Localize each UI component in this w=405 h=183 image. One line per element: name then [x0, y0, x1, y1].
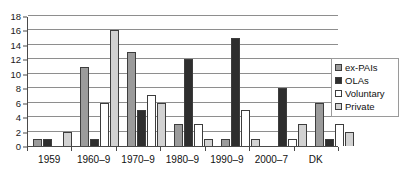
- gridline: [28, 15, 338, 16]
- x-axis-tick-mark: [249, 147, 250, 151]
- legend-item-label: OLAs: [345, 76, 369, 86]
- x-axis-tick-label: 1980–9: [160, 154, 204, 165]
- y-axis-tick-label: 4: [16, 113, 21, 123]
- bar: [174, 124, 183, 146]
- y-axis-tick-label: 14: [10, 41, 21, 51]
- legend-item[interactable]: ex-PAIs: [335, 61, 395, 74]
- legend-item[interactable]: OLAs: [335, 74, 395, 87]
- bar: [221, 139, 230, 146]
- x-axis-labels: 19591960–91970–91980–91990–92000–7DK: [27, 154, 338, 165]
- legend-item-label: Voluntary: [345, 89, 385, 99]
- bar: [204, 139, 213, 146]
- y-axis-tick-label: 6: [16, 99, 21, 109]
- x-axis-tick-mark: [71, 147, 72, 151]
- x-axis-tick-mark: [160, 147, 161, 151]
- x-axis-tick-mark: [205, 147, 206, 151]
- y-axis-tick-label: 8: [16, 84, 21, 94]
- bar: [288, 139, 297, 146]
- legend-item-label: ex-PAIs: [345, 63, 378, 73]
- x-axis-tick-label: 1990–9: [205, 154, 249, 165]
- y-axis-tick-label: 12: [10, 56, 21, 66]
- x-axis-tick-mark: [116, 147, 117, 151]
- x-axis-tick-label: 2000–7: [249, 154, 293, 165]
- bar: [241, 110, 250, 146]
- bar: [100, 103, 109, 146]
- y-axis-tick-label: 0: [16, 142, 21, 152]
- bar: [184, 59, 193, 146]
- bar: [194, 124, 203, 146]
- x-axis-tick-mark: [27, 147, 28, 151]
- legend-swatch-icon: [335, 90, 342, 97]
- bar-chart: 024681012141618 19591960–91970–91980–919…: [0, 0, 405, 183]
- plot-area: [27, 17, 338, 147]
- bar: [90, 139, 99, 146]
- bar-group: [170, 17, 217, 146]
- bar: [345, 132, 354, 146]
- bar: [110, 30, 119, 146]
- legend-item[interactable]: Voluntary: [335, 87, 395, 100]
- legend-item[interactable]: Private: [335, 100, 395, 113]
- y-axis-tick-label: 2: [16, 128, 21, 138]
- bar-group: [264, 17, 311, 146]
- x-axis-tick-mark: [294, 147, 295, 151]
- bar: [335, 124, 344, 146]
- bar: [80, 67, 89, 146]
- legend-swatch-icon: [335, 77, 342, 84]
- bar: [127, 52, 136, 146]
- y-axis-tick-label: 16: [10, 27, 21, 37]
- y-axis-tick-label: 10: [10, 70, 21, 80]
- bar: [251, 139, 260, 146]
- legend-swatch-icon: [335, 103, 342, 110]
- bar: [33, 139, 42, 146]
- bar-group: [76, 17, 123, 146]
- chart-legend: ex-PAIsOLAsVoluntaryPrivate: [331, 58, 399, 117]
- bar: [315, 103, 324, 146]
- bar: [298, 124, 307, 146]
- bar-groups: [29, 17, 338, 146]
- bar: [43, 139, 52, 146]
- legend-item-label: Private: [345, 102, 375, 112]
- x-axis-tick-label: DK: [294, 154, 338, 165]
- bar-group: [29, 17, 76, 146]
- bar: [137, 110, 146, 146]
- bar: [63, 132, 72, 146]
- legend-swatch-icon: [335, 64, 342, 71]
- x-axis-ticks: [27, 147, 338, 152]
- bar-group: [123, 17, 170, 146]
- x-axis-tick-label: 1960–9: [71, 154, 115, 165]
- x-axis-tick-label: 1970–9: [116, 154, 160, 165]
- bar: [157, 103, 166, 146]
- x-axis-tick-label: 1959: [27, 154, 71, 165]
- y-axis-tick-label: 18: [10, 12, 21, 22]
- y-axis: 024681012141618: [0, 11, 27, 148]
- bar-group: [217, 17, 264, 146]
- bar: [147, 95, 156, 146]
- x-axis-tick-mark: [338, 147, 339, 151]
- bar: [325, 139, 334, 146]
- bar: [278, 88, 287, 146]
- bar: [231, 38, 240, 146]
